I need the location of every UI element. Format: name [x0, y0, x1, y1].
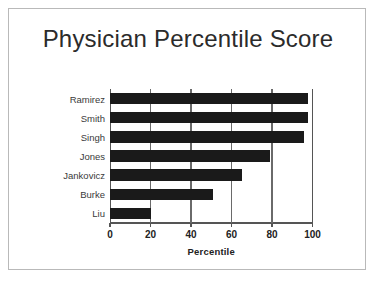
x-tick-mark	[150, 223, 152, 227]
bar-row: Jankovicz	[110, 166, 313, 185]
x-tick-label: 80	[266, 229, 277, 240]
chart-plot-area: RamirezSmithSinghJonesJankoviczBurkeLiu …	[110, 89, 313, 223]
category-label: Singh	[81, 133, 105, 143]
bar-row: Singh	[110, 127, 313, 146]
x-tick-mark	[271, 223, 273, 227]
x-tick-label: 60	[226, 229, 237, 240]
bar-row: Liu	[110, 204, 313, 223]
category-label: Smith	[81, 114, 105, 124]
bar-row: Ramirez	[110, 89, 313, 108]
category-label: Jankovicz	[63, 171, 105, 181]
x-tick-label: 0	[107, 229, 113, 240]
category-label: Burke	[80, 190, 105, 200]
x-tick-mark	[312, 223, 314, 227]
bar[interactable]	[110, 131, 304, 142]
chart-title: Physician Percentile Score	[9, 25, 367, 53]
x-tick-label: 40	[185, 229, 196, 240]
x-axis-title: Percentile	[110, 246, 313, 257]
bar[interactable]	[110, 169, 242, 180]
slide-frame: Physician Percentile Score RamirezSmithS…	[8, 8, 366, 270]
category-label: Ramirez	[70, 95, 105, 105]
x-tick-label: 20	[145, 229, 156, 240]
bar[interactable]	[110, 93, 308, 104]
x-tick-mark	[231, 223, 233, 227]
category-label: Jones	[80, 152, 105, 162]
bar-row: Burke	[110, 185, 313, 204]
bar[interactable]	[110, 150, 270, 161]
x-tick-mark	[109, 223, 111, 227]
x-tick-label: 100	[304, 229, 321, 240]
x-tick-mark	[190, 223, 192, 227]
bar[interactable]	[110, 208, 151, 219]
bar-row: Smith	[110, 108, 313, 127]
bar[interactable]	[110, 112, 308, 123]
category-label: Liu	[92, 209, 105, 219]
bar[interactable]	[110, 189, 213, 200]
bar-row: Jones	[110, 146, 313, 165]
